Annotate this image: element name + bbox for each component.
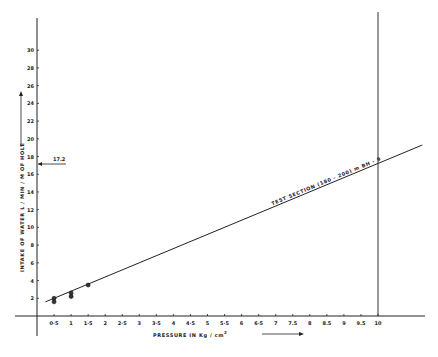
y-tick-label: 2: [31, 295, 35, 301]
data-point: [52, 300, 56, 304]
y-axis-ticks: 24681012141618202224262830: [27, 47, 39, 301]
x-tick-label: 9: [342, 320, 346, 326]
pressure-intake-chart: 0·511·522·533·544·555·566·577.588.599.51…: [0, 0, 438, 357]
x-tick-label: 10: [375, 320, 382, 326]
y-tick-label: 18: [27, 154, 34, 160]
x-tick-label: 1: [69, 320, 73, 326]
x-tick-label: 6: [240, 320, 244, 326]
x-tick-label: 9.5: [357, 320, 366, 326]
x-tick-label: 2: [103, 320, 107, 326]
x-tick-label: 3: [138, 320, 142, 326]
y-axis-arrow: [19, 91, 23, 147]
y-tick-label: 20: [27, 136, 34, 142]
x-tick-label: 0·5: [50, 320, 59, 326]
y-tick-label: 30: [27, 47, 34, 53]
y-tick-label: 8: [31, 242, 35, 248]
y-tick-label: 12: [27, 207, 34, 213]
y-tick-label: 26: [27, 83, 34, 89]
x-tick-label: 5·5: [220, 320, 229, 326]
y-tick-label: 22: [27, 118, 34, 124]
y-tick-label: 4: [31, 278, 35, 284]
x-axis-arrow: [262, 332, 304, 336]
x-tick-label: 3·5: [152, 320, 161, 326]
x-tick-label: 8: [308, 320, 312, 326]
x-tick-label: 4: [172, 320, 176, 326]
y-tick-label: 14: [27, 189, 34, 195]
fitted-line: [46, 145, 423, 302]
x-tick-label: 6·5: [254, 320, 263, 326]
marker-17-2: 17.2: [38, 156, 66, 166]
y-tick-label: 6: [31, 260, 35, 266]
x-tick-label: 2·5: [118, 320, 127, 326]
y-tick-label: 10: [27, 224, 34, 230]
data-point: [86, 283, 90, 287]
y-tick-label: 24: [27, 100, 34, 106]
x-tick-label: 5: [206, 320, 210, 326]
x-tick-label: 4·5: [186, 320, 195, 326]
x-tick-label: 8.5: [322, 320, 331, 326]
x-tick-label: 1·5: [84, 320, 93, 326]
x-tick-label: 7.5: [288, 320, 297, 326]
data-point: [69, 295, 73, 299]
line-label: TEST SECTION (180 - 200) m BH - 9: [270, 155, 381, 206]
x-axis-title: PRESSURE IN Kg / cm2: [153, 330, 228, 339]
y-tick-label: 28: [27, 65, 34, 71]
y-tick-label: 16: [27, 171, 34, 177]
y-axis-title: INTAKE OF WATER L / MIN / M OF HOLE: [19, 142, 25, 272]
marker-value: 17.2: [53, 156, 66, 162]
x-tick-label: 7: [274, 320, 278, 326]
